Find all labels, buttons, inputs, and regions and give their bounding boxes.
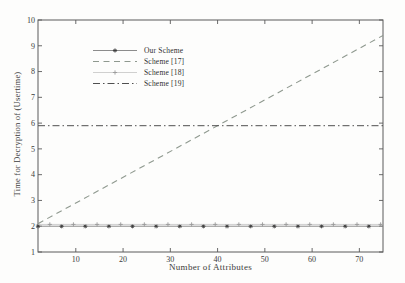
y-tick-label: 9	[31, 42, 35, 51]
x-axis-label: Number of Attributes	[38, 262, 383, 272]
series-line-scheme-17	[38, 35, 383, 223]
legend-item-scheme-17: Scheme [17]	[92, 56, 184, 66]
plus-marker	[113, 70, 117, 74]
asterisk-marker	[113, 48, 117, 52]
y-tick-label: 4	[31, 170, 35, 179]
y-tick-label: 8	[31, 67, 35, 76]
legend-label: Scheme [17]	[144, 57, 184, 66]
legend-item-our-scheme: Our Scheme	[92, 45, 184, 55]
legend-line-sample	[92, 79, 138, 88]
legend-line-sample	[92, 46, 138, 55]
figure: 1020304050607012345678910 Time for Decry…	[0, 0, 405, 283]
axes-box	[38, 20, 383, 252]
y-tick-label: 5	[31, 145, 35, 154]
y-tick-label: 2	[31, 222, 35, 231]
legend-item-scheme-18: Scheme [18]	[92, 67, 184, 77]
y-tick-label: 1	[31, 248, 35, 257]
legend-label: Scheme [18]	[144, 68, 184, 77]
legend-item-scheme-19: Scheme [19]	[92, 78, 184, 88]
legend-line-sample	[92, 57, 138, 66]
legend-line-sample	[92, 68, 138, 77]
legend: Our SchemeScheme [17]Scheme [18]Scheme […	[92, 45, 184, 88]
plot-svg: 1020304050607012345678910	[0, 0, 405, 283]
y-tick-label: 10	[27, 16, 35, 25]
y-axis-label: Time for Decryption of (Usertime)	[12, 70, 22, 198]
y-tick-label: 7	[31, 93, 35, 102]
y-tick-label: 6	[31, 119, 35, 128]
y-tick-label: 3	[31, 196, 35, 205]
legend-label: Our Scheme	[144, 46, 183, 55]
legend-label: Scheme [19]	[144, 79, 184, 88]
